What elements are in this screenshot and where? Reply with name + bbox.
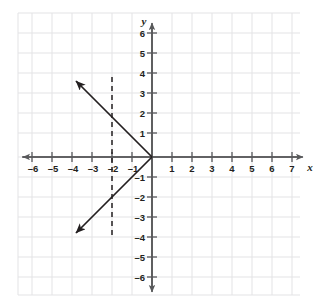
y-tick-label: –4 [134, 232, 145, 243]
x-axis-label: x [306, 161, 313, 173]
y-tick-label: 2 [140, 108, 145, 119]
x-tick-label: –5 [48, 163, 59, 174]
coordinate-plane-figure: –6 –5 –4 –3 –2 –1 1 2 3 4 5 6 7 6 5 4 3 … [0, 0, 322, 308]
y-tick-label: –5 [134, 252, 145, 263]
x-tick-label: 7 [289, 163, 294, 174]
x-tick-label: 1 [169, 163, 175, 174]
plot-background [18, 13, 300, 295]
x-tick-label: 4 [229, 163, 235, 174]
y-tick-label: –3 [134, 212, 145, 223]
x-tick-label: 2 [189, 163, 194, 174]
graph-canvas: –6 –5 –4 –3 –2 –1 1 2 3 4 5 6 7 6 5 4 3 … [0, 0, 322, 308]
y-tick-label: 6 [140, 28, 145, 39]
x-tick-label: –3 [88, 163, 99, 174]
x-tick-label: –2 [108, 163, 119, 174]
x-tick-label: 3 [209, 163, 214, 174]
x-tick-label: 6 [269, 163, 274, 174]
y-tick-label: 1 [140, 128, 146, 139]
y-tick-label: 3 [140, 88, 145, 99]
y-tick-label: 4 [140, 68, 146, 79]
x-tick-label: 5 [249, 163, 255, 174]
y-axis-label: y [140, 15, 147, 27]
y-tick-label: –6 [134, 272, 145, 283]
x-tick-label: –4 [68, 163, 79, 174]
y-tick-label: –2 [134, 192, 145, 203]
x-tick-label: –6 [28, 163, 39, 174]
y-tick-label: 5 [140, 48, 146, 59]
